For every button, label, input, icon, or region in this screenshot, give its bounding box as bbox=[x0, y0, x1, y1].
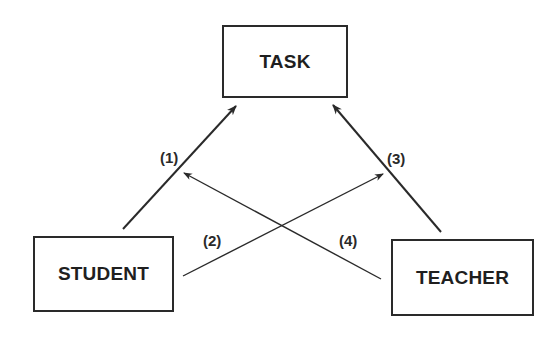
student-node: STUDENT bbox=[33, 236, 174, 312]
task-node: TASK bbox=[222, 25, 348, 98]
arrow-1-student-to-task bbox=[123, 106, 236, 229]
arrow-4-teacher-to-student-task-link bbox=[184, 173, 381, 279]
arrow-3-teacher-to-task bbox=[333, 105, 441, 232]
teacher-node-label: TEACHER bbox=[416, 267, 509, 289]
teacher-node: TEACHER bbox=[391, 239, 534, 316]
edge-label-1: (1) bbox=[160, 150, 178, 165]
student-node-label: STUDENT bbox=[58, 263, 149, 285]
student-task-teacher-diagram: TASK STUDENT TEACHER (1) (2) (3) (4) bbox=[0, 0, 559, 338]
task-node-label: TASK bbox=[259, 51, 310, 73]
edge-label-3: (3) bbox=[387, 151, 405, 166]
edge-label-4: (4) bbox=[339, 233, 357, 248]
edge-label-2: (2) bbox=[203, 233, 221, 248]
